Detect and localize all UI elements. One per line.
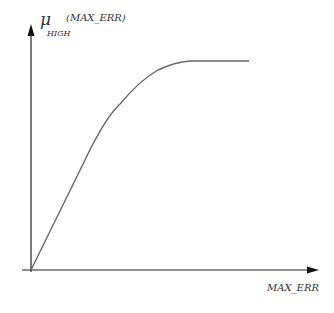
y-axis-label-symbol: μ: [40, 9, 51, 29]
y-axis-arrow-icon: [28, 24, 35, 36]
y-axis-label-argument: (MAX_ERR): [66, 12, 126, 24]
x-axis-arrow-icon: [307, 267, 319, 274]
membership-function-diagram: μ HIGH (MAX_ERR) MAX_ERR: [0, 0, 334, 313]
x-axis-label: MAX_ERR: [266, 282, 319, 294]
y-axis-label-subscript: HIGH: [46, 29, 72, 38]
membership-curve: [31, 61, 249, 270]
